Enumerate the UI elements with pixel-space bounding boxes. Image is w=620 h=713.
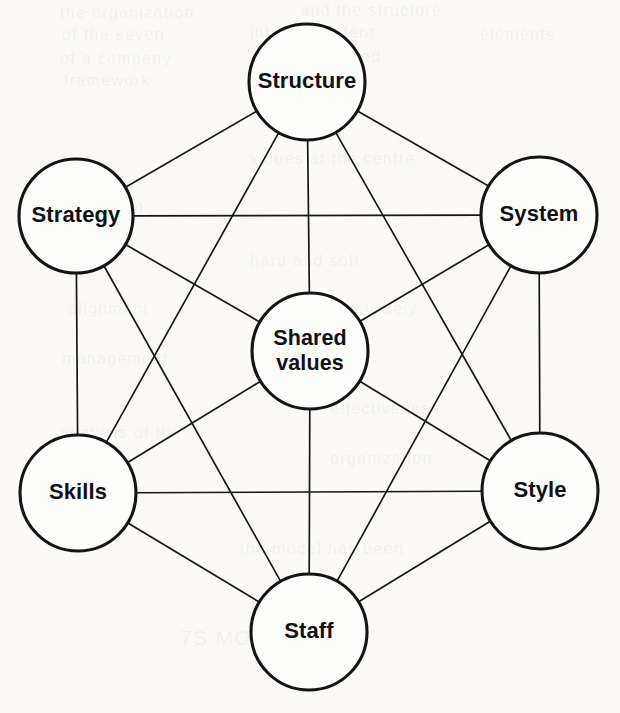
node-label-line: Strategy xyxy=(32,202,121,227)
seven-s-framework-diagram: the organizationand the structureof the … xyxy=(0,0,620,713)
node-label-system: System xyxy=(500,201,579,226)
node-structure[interactable]: Structure xyxy=(249,24,365,140)
node-label-shared-values: Sharedvalues xyxy=(273,325,347,374)
node-label-strategy: Strategy xyxy=(32,202,121,227)
edge-shared-values-to-structure xyxy=(308,141,310,292)
edge-system-to-style xyxy=(539,274,540,432)
edge-shared-values-to-skills xyxy=(128,382,259,462)
edge-shared-values-to-system xyxy=(361,245,488,321)
edge-structure-to-style xyxy=(336,133,510,439)
node-label-line: Shared xyxy=(273,325,347,349)
edge-structure-to-strategy xyxy=(126,112,255,187)
node-label-line: Skills xyxy=(49,479,107,504)
edge-system-to-staff xyxy=(338,267,511,580)
node-skills[interactable]: Skills xyxy=(20,435,136,551)
node-label-line: Style xyxy=(513,477,566,502)
edge-strategy-to-staff xyxy=(104,267,280,581)
edge-strategy-to-skills xyxy=(76,274,77,434)
node-staff[interactable]: Staff xyxy=(251,574,367,690)
nodes-group: StructureStrategySystemSharedvaluesSkill… xyxy=(19,24,598,690)
node-strategy[interactable]: Strategy xyxy=(19,159,133,273)
node-label-line: Structure xyxy=(258,68,357,93)
node-label-staff: Staff xyxy=(284,618,334,643)
node-shared-values[interactable]: Sharedvalues xyxy=(252,293,368,409)
edge-style-to-staff xyxy=(360,522,490,601)
edge-structure-to-system xyxy=(358,111,487,185)
node-label-structure: Structure xyxy=(258,68,357,93)
edge-skills-to-staff xyxy=(129,524,259,602)
node-label-style: Style xyxy=(513,477,566,502)
edge-structure-to-skills xyxy=(107,134,278,442)
node-system[interactable]: System xyxy=(481,157,597,273)
edge-skills-to-style xyxy=(137,491,481,492)
node-style[interactable]: Style xyxy=(482,433,598,549)
edge-shared-values-to-strategy xyxy=(126,245,258,321)
node-label-line: System xyxy=(500,201,579,226)
diagram-canvas: StructureStrategySystemSharedvaluesSkill… xyxy=(0,0,620,713)
edge-strategy-to-system xyxy=(134,215,480,216)
node-label-skills: Skills xyxy=(49,479,107,504)
node-label-line: Staff xyxy=(284,618,334,643)
node-label-line: values xyxy=(276,350,344,374)
